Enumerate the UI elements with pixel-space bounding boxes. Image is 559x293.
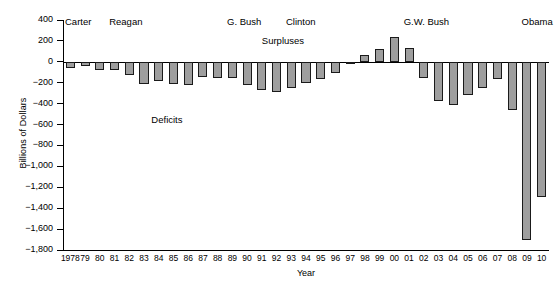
y-tick-label: 400	[0, 14, 53, 24]
bar	[154, 62, 163, 81]
bar	[463, 62, 472, 95]
bar	[66, 62, 75, 68]
y-tick-label: −1,200	[0, 181, 53, 191]
y-tick-label: −200	[0, 77, 53, 87]
y-tick-label: −600	[0, 119, 53, 129]
bar	[360, 55, 369, 62]
era-label: Obama	[522, 16, 553, 27]
bars-layer	[63, 20, 549, 250]
bar	[125, 62, 134, 75]
bar	[243, 62, 252, 85]
y-tick-label: −1,400	[0, 202, 53, 212]
bar	[537, 62, 546, 197]
budget-deficit-chart: Billions of Dollars 4002000−200−400−600−…	[0, 0, 559, 293]
bar	[316, 62, 325, 79]
x-axis-line	[63, 250, 549, 251]
y-tick-label: −400	[0, 98, 53, 108]
y-tick-label: 200	[0, 35, 53, 45]
bar	[213, 62, 222, 78]
y-tick-label: −1,600	[0, 223, 53, 233]
y-tick-label: −800	[0, 139, 53, 149]
era-label: Clinton	[286, 16, 316, 27]
bar	[390, 37, 399, 62]
era-label: G. Bush	[227, 16, 261, 27]
y-tick-label: −1,000	[0, 160, 53, 170]
annotation-surpluses: Surpluses	[262, 35, 304, 46]
bar	[493, 62, 502, 79]
bar	[169, 62, 178, 84]
bar	[198, 62, 207, 78]
y-tick-label: −1,800	[0, 244, 53, 254]
bar	[228, 62, 237, 78]
bar	[81, 62, 90, 66]
bar	[139, 62, 148, 84]
era-label: G.W. Bush	[404, 16, 449, 27]
y-tick-label: 0	[0, 56, 53, 66]
bar	[346, 62, 355, 64]
bar	[257, 62, 266, 90]
bar	[301, 62, 310, 83]
x-axis-title: Year	[63, 268, 549, 278]
era-label: Reagan	[109, 16, 142, 27]
annotation-deficits: Deficits	[151, 114, 182, 125]
bar	[478, 62, 487, 88]
bar	[331, 62, 340, 73]
bar	[508, 62, 517, 110]
bar	[184, 62, 193, 85]
bar	[449, 62, 458, 105]
y-axis-title: Billions of Dollars	[18, 48, 28, 218]
bar	[375, 49, 384, 62]
bar	[522, 62, 531, 240]
bar	[419, 62, 428, 79]
bar	[272, 62, 281, 92]
x-tick-label: 10	[531, 253, 553, 263]
era-label: Carter	[65, 16, 91, 27]
bar	[95, 62, 104, 70]
bar	[434, 62, 443, 102]
bar	[287, 62, 296, 89]
bar	[405, 48, 414, 61]
bar	[110, 62, 119, 70]
